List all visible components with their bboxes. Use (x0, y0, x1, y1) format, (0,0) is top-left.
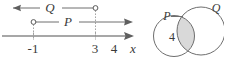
axis-label-x: x (129, 41, 136, 56)
figure-svg: Q P -1 3 4 x (0, 0, 224, 61)
figure-container: Q P -1 3 4 x (0, 0, 224, 61)
tick-label-minus-one: -1 (28, 41, 39, 56)
axis-group (2, 32, 134, 40)
venn-label-P: P (162, 9, 171, 23)
number-line-group: Q P -1 3 4 x (2, 0, 136, 56)
ray-Q-arrowhead-left (13, 5, 21, 11)
venn-diagram-group: P Q 4 (154, 1, 225, 57)
tick-label-three: 3 (92, 41, 99, 56)
ray-P-open-endpoint (31, 20, 36, 25)
venn-label-Q: Q (212, 1, 221, 15)
ray-P-label: P (63, 14, 72, 29)
ray-Q-open-endpoint (93, 6, 98, 11)
venn-element-four: 4 (169, 30, 175, 44)
ray-P-arrowhead-right (124, 19, 133, 26)
axis-arrowhead-right (124, 32, 134, 40)
ray-Q-label: Q (45, 0, 55, 15)
ray-P: P (31, 14, 133, 30)
tick-label-four: 4 (111, 41, 118, 56)
ray-Q: Q (13, 0, 98, 16)
